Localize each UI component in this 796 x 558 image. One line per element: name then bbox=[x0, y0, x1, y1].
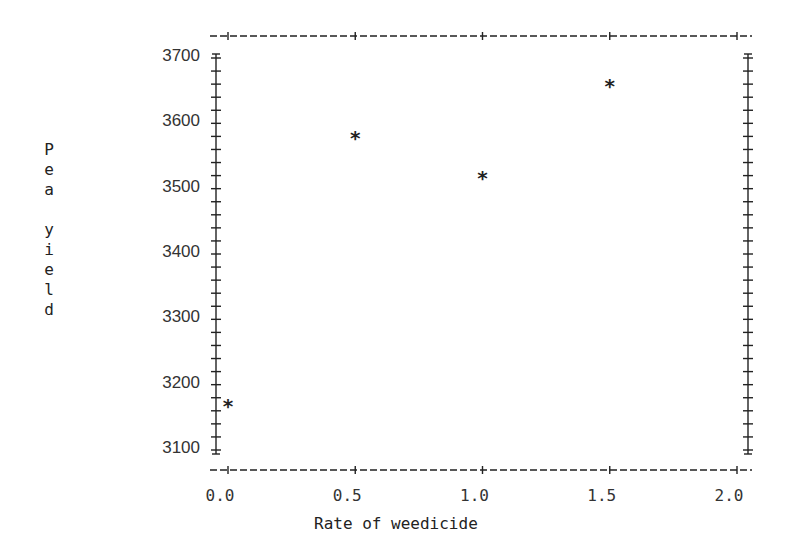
x-axis-label: Rate of weedicide bbox=[314, 514, 478, 533]
data-point-marker: * bbox=[476, 171, 490, 185]
y-tick-label: 3200 bbox=[140, 373, 200, 393]
y-tick-label: 3700 bbox=[140, 46, 200, 66]
x-tick-label: 0.5 bbox=[317, 486, 377, 505]
y-tick-label: 3300 bbox=[140, 307, 200, 327]
y-axis-label: P e a y i e l d bbox=[42, 140, 56, 320]
x-tick-label: 1.0 bbox=[445, 486, 505, 505]
x-tick-label: 1.5 bbox=[572, 486, 632, 505]
x-tick-label: 0.0 bbox=[190, 486, 250, 505]
y-tick-label: 3400 bbox=[140, 242, 200, 262]
y-tick-label: 3500 bbox=[140, 177, 200, 197]
x-tick-label: 2.0 bbox=[699, 486, 759, 505]
data-point-marker: * bbox=[348, 131, 362, 145]
y-tick-label: 3100 bbox=[140, 438, 200, 458]
data-point-marker: * bbox=[221, 399, 235, 413]
data-point-marker: * bbox=[603, 79, 617, 93]
y-tick-label: 3600 bbox=[140, 111, 200, 131]
plot-frame bbox=[0, 0, 796, 558]
